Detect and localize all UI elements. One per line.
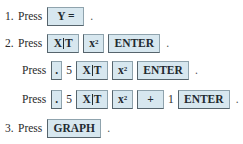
key-decimal-point: . [51,61,62,80]
step-1: 1. Press Y = . [5,5,93,27]
key-t-label: T [94,64,102,76]
key-x-squared: x2 [112,61,133,80]
step-3: 3. Press GRAPH . [5,117,110,139]
period: . [166,37,169,49]
step-number: 2. [5,37,18,49]
key-enter: ENTER [137,61,189,80]
step-number: 3. [5,122,18,134]
period: . [107,122,110,134]
literal-digit: 1 [168,93,174,105]
step-2-substep-1: Press . 5 XT x2 ENTER . [22,59,198,81]
step-2: 2. Press XT x2 ENTER . [5,32,169,54]
key-x-t: XT [47,34,79,53]
literal-digit: 5 [66,93,72,105]
key-x-label: X [83,64,91,76]
key-enter: ENTER [108,34,160,53]
step-number: 1. [5,10,18,22]
key-t-label: T [65,37,73,49]
period: . [195,64,198,76]
key-x-squared: x2 [83,34,104,53]
key-x-label: X [54,37,62,49]
press-label: Press [22,64,46,76]
press-label: Press [18,122,42,134]
key-enter: ENTER [178,90,230,109]
key-x-label: x [118,93,124,105]
key-separator [92,94,93,105]
step-2-substep-2: Press . 5 XT x2 + 1 ENTER . [22,88,239,110]
press-label: Press [18,10,42,22]
key-graph: GRAPH [47,119,101,138]
key-x-label: x [118,64,124,76]
period: . [236,93,239,105]
key-t-label: T [94,93,102,105]
period: . [90,10,93,22]
key-x-squared: x2 [112,90,133,109]
key-plus: + [137,90,164,109]
press-label: Press [22,93,46,105]
key-decimal-point: . [51,90,62,109]
press-label: Press [18,37,42,49]
key-y-equals: Y = [47,7,84,26]
key-separator [63,38,64,49]
key-x-t: XT [76,61,108,80]
key-x-t: XT [76,90,108,109]
key-x-label: X [83,93,91,105]
key-separator [92,65,93,76]
literal-digit: 5 [66,64,72,76]
